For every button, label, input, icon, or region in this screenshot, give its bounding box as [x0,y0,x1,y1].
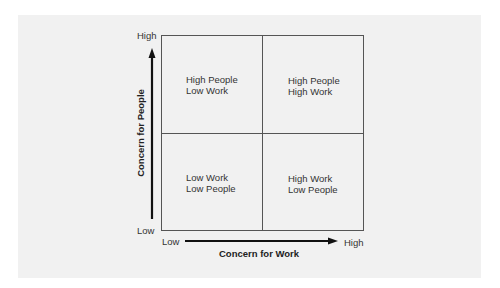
right-arrow-icon [185,238,338,245]
up-arrow-icon [149,48,156,219]
axis-arrows [0,0,500,288]
